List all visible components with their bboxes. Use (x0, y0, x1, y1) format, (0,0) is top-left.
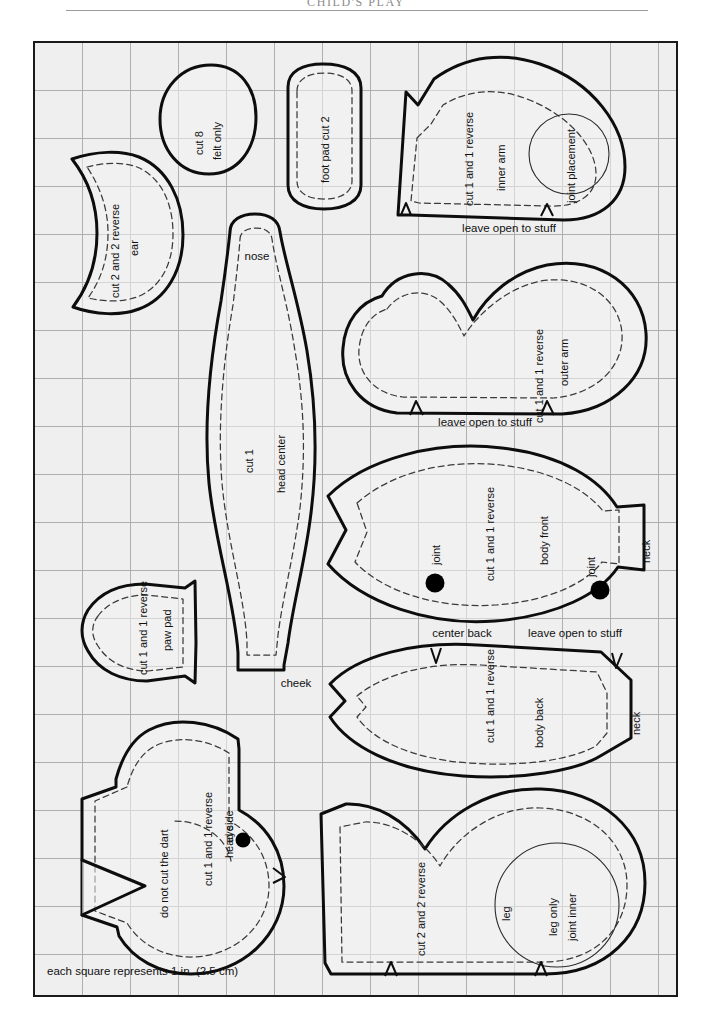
outer-arm-note-open: leave open to stuff (438, 416, 533, 428)
ear-cutline (72, 152, 183, 313)
inner-arm-note-open: leave open to stuff (462, 222, 557, 234)
piece-foot-pad[interactable]: foot pad cut 2 (288, 64, 361, 209)
head-center-note-nose: nose (245, 250, 270, 262)
foot-pad-label: foot pad cut 2 (319, 116, 331, 183)
running-head: CHILD'S PLAY (0, 0, 712, 10)
piece-body-front[interactable]: joint joint cut 1 and 1 reverse body fro… (328, 446, 652, 622)
felt-circle-label-cut8: cut 8 (193, 131, 205, 155)
piece-head-side[interactable]: do not cut the dart cut 1 and 1 reverse … (82, 722, 285, 974)
piece-head-center[interactable]: nose cut 1 head center cheek (207, 214, 315, 689)
piece-body-back[interactable]: center back leave open to stuff cut 1 an… (330, 627, 642, 777)
leg-label-name: leg (500, 906, 512, 921)
body-back-label-neck: neck (630, 711, 642, 735)
piece-felt-circle[interactable]: cut 8 felt only (160, 65, 256, 174)
head-side-eye-dot (236, 833, 251, 848)
outer-arm-cutline (343, 263, 646, 414)
pattern-pieces-layer: cut 8 felt only foot pad cut 2 cut 2 and… (35, 43, 680, 999)
body-back-note-centerback: center back (432, 627, 492, 639)
piece-inner-arm[interactable]: cut 1 and 1 reverse inner arm joint plac… (398, 57, 625, 234)
body-back-cutline (330, 644, 631, 777)
head-side-cutline (82, 722, 284, 974)
piece-outer-arm[interactable]: cut 1 and 1 reverse outer arm leave open… (343, 263, 646, 428)
pattern-sheet: cut 8 felt only foot pad cut 2 cut 2 and… (33, 41, 678, 997)
felt-circle-label-feltonly: felt only (211, 122, 223, 160)
head-side-label-dart: do not cut the dart (158, 829, 170, 918)
running-head-rule (66, 10, 648, 11)
leg-label-legonly: leg only (547, 898, 559, 936)
paw-pad-label-name: paw pad (161, 609, 173, 651)
leg-label-cut: cut 2 and 2 reverse (415, 862, 427, 956)
ear-label-cut: cut 2 and 2 reverse (109, 204, 121, 298)
piece-ear[interactable]: cut 2 and 2 reverse ear (72, 152, 183, 313)
head-center-cutline (207, 214, 315, 670)
body-back-label-name: body back (533, 697, 545, 748)
ear-label-name: ear (128, 240, 140, 256)
body-back-note-open: leave open to stuff (528, 627, 623, 639)
body-front-joint-dot-right (591, 581, 610, 600)
inner-arm-cutline (398, 57, 625, 220)
head-center-label-name: head center (275, 435, 287, 493)
leg-label-jointinner: joint inner (566, 893, 578, 942)
paw-pad-label-cut: cut 1 and 1 reverse (137, 581, 149, 675)
body-front-label-neck: neck (640, 539, 652, 563)
head-side-label-eye: eye (223, 825, 235, 843)
body-back-label-cut: cut 1 and 1 reverse (484, 649, 496, 743)
felt-circle-cutline (160, 65, 256, 174)
outer-arm-label-name: outer arm (558, 339, 570, 386)
inner-arm-label-cut: cut 1 and 1 reverse (463, 112, 475, 206)
piece-paw-pad[interactable]: cut 1 and 1 reverse paw pad (82, 581, 196, 683)
outer-arm-label-cut: cut 1 and 1 reverse (533, 329, 545, 423)
body-front-joint-dot-left (426, 574, 445, 593)
body-front-label-name: body front (538, 516, 550, 565)
head-center-note-cheek: cheek (281, 677, 312, 689)
inner-arm-label-joint: joint placement (565, 129, 577, 204)
scale-caption: each square represents 1 in. (2.5 cm) (47, 965, 238, 977)
body-front-label-cut: cut 1 and 1 reverse (484, 487, 496, 581)
body-front-label-joint-right: joint (585, 557, 597, 578)
body-front-label-joint-left: joint (430, 545, 442, 566)
piece-leg[interactable]: cut 2 and 2 reverse leg leg only joint i… (321, 789, 645, 976)
head-side-label-cut: cut 1 and 1 reverse (202, 792, 214, 886)
head-center-label-cut1: cut 1 (243, 449, 255, 473)
inner-arm-label-name: inner arm (495, 145, 507, 191)
